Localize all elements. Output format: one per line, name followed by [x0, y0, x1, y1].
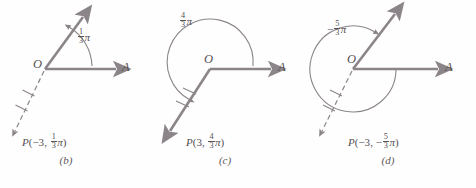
negative-ray-b — [15, 71, 44, 131]
panel-b: O A 13π P(−3, 13π) (b) — [0, 0, 150, 188]
angle-numerator-c: 4 — [180, 12, 186, 20]
angle-label-c: 43π — [179, 12, 192, 30]
point-name-d: P — [348, 136, 355, 148]
panel-d: O A −53π P(−3, −53π) (d) — [300, 0, 476, 188]
angle-pi-b: π — [85, 31, 91, 43]
angle-numerator-d: 5 — [334, 20, 340, 28]
point-theta-sign-d: − — [376, 136, 382, 148]
point-name-b: P — [22, 136, 29, 148]
angle-fraction-c: 43 — [180, 12, 186, 30]
angle-denominator-b: 3 — [78, 36, 84, 45]
axis-label-c: A — [278, 61, 286, 74]
point-label-d: P(−3, −53π) — [348, 133, 399, 151]
axis-label-d: A — [445, 61, 453, 74]
point-name-c: P — [186, 136, 193, 148]
axis-label-b: A — [122, 61, 130, 74]
point-paren-close-c: ) — [221, 136, 225, 148]
angle-denominator-d: 3 — [334, 28, 340, 37]
angle-label-b: 13π — [77, 28, 90, 46]
angle-pi-c: π — [187, 15, 193, 27]
caption-c: (c) — [205, 154, 245, 166]
point-paren-close-d: ) — [395, 136, 399, 148]
angle-pi-d: π — [341, 23, 347, 35]
negative-ray-d — [322, 71, 352, 131]
figure-root: O A 13π P(−3, 13π) (b) — [0, 0, 476, 188]
angle-numerator-b: 1 — [78, 28, 84, 36]
point-theta-denominator-c: 3 — [208, 141, 214, 150]
point-comma-d: , — [370, 136, 376, 148]
angle-sign-d: − — [327, 23, 333, 35]
caption-d: (d) — [368, 154, 408, 166]
origin-label-c: O — [204, 53, 213, 66]
tick-mark-c-1 — [183, 88, 196, 94]
point-comma-b: , — [44, 136, 50, 148]
point-theta-numerator-b: 1 — [51, 133, 57, 141]
point-r-d: −3 — [358, 136, 370, 148]
point-theta-fraction-c: 43 — [208, 133, 214, 151]
point-label-b: P(−3, 13π) — [22, 133, 66, 151]
angle-fraction-b: 13 — [78, 28, 84, 46]
point-theta-numerator-c: 4 — [208, 133, 214, 141]
point-r-b: −3 — [32, 136, 44, 148]
terminal-ray-d — [353, 14, 395, 69]
point-theta-denominator-b: 3 — [51, 141, 57, 150]
origin-label-d: O — [347, 53, 356, 66]
angle-label-d: −53π — [327, 20, 346, 38]
origin-label-b: O — [33, 58, 42, 71]
tick-mark-b-1 — [23, 90, 35, 96]
angle-fraction-d: 53 — [334, 20, 340, 38]
point-theta-fraction-b: 13 — [51, 133, 57, 151]
panel-c: O A 43π P(3, 43π) (c) — [145, 0, 305, 188]
angle-denominator-c: 3 — [180, 20, 186, 29]
point-label-c: P(3, 43π) — [186, 133, 224, 151]
point-paren-close-b: ) — [63, 136, 67, 148]
point-comma-c: , — [202, 136, 208, 148]
caption-b: (b) — [46, 154, 86, 166]
tick-mark-d-1 — [330, 90, 342, 96]
